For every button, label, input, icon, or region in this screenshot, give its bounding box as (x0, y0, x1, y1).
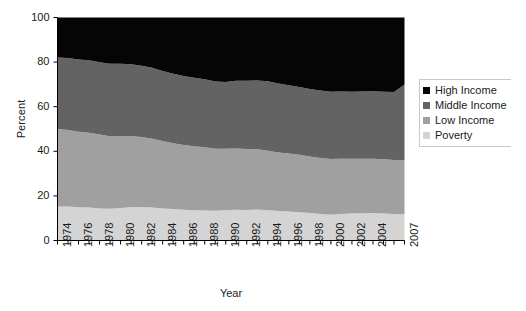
y-tick-label: 100 (16, 12, 50, 23)
legend-item[interactable]: Middle Income (423, 98, 507, 113)
x-tick-label: 2000 (335, 222, 346, 246)
legend-item[interactable]: High Income (423, 83, 507, 98)
y-tick-label: 80 (16, 56, 50, 67)
x-tick-label: 1978 (104, 222, 115, 246)
legend-swatch-middle-income (423, 102, 430, 109)
x-tick-label: 1986 (188, 222, 199, 246)
x-tick-label: 1980 (125, 222, 136, 246)
legend-label: Poverty (435, 130, 472, 141)
x-tick-label: 2007 (409, 222, 420, 246)
legend-swatch-high-income (423, 87, 430, 94)
x-tick-label: 1976 (83, 222, 94, 246)
y-tick-label: 60 (16, 101, 50, 112)
x-axis-title: Year (57, 287, 405, 299)
stacked-area-chart: Percent Year 020406080100 19741976197819… (0, 0, 526, 311)
y-tick-label: 40 (16, 145, 50, 156)
legend-swatch-poverty (423, 132, 430, 139)
x-tick-label: 2004 (377, 222, 388, 246)
legend-item[interactable]: Low Income (423, 113, 507, 128)
x-tick-label: 2002 (356, 222, 367, 246)
legend-item[interactable]: Poverty (423, 128, 507, 143)
y-tick-label: 20 (16, 190, 50, 201)
x-tick-label: 1998 (314, 222, 325, 246)
x-tick-label: 1984 (167, 222, 178, 246)
legend-label: Low Income (435, 115, 494, 126)
x-tick-label: 1982 (146, 222, 157, 246)
legend-label: Middle Income (435, 100, 507, 111)
x-tick-label: 1996 (293, 222, 304, 246)
x-tick-label: 1990 (230, 222, 241, 246)
x-tick-label: 1988 (209, 222, 220, 246)
chart-plot-area (0, 0, 526, 311)
x-tick-label: 1994 (272, 222, 283, 246)
legend-swatch-low-income (423, 117, 430, 124)
x-tick-label: 1974 (62, 222, 73, 246)
chart-legend: High Income Middle Income Low Income Pov… (419, 79, 511, 147)
y-tick-label: 0 (16, 235, 50, 246)
legend-label: High Income (435, 85, 497, 96)
x-tick-label: 1992 (251, 222, 262, 246)
